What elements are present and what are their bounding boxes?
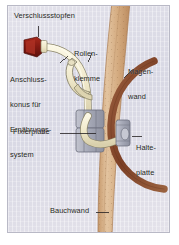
label-magenwand: Magen- wand — [128, 51, 153, 118]
label-anschlusskonus-line4: system — [10, 151, 51, 159]
label-anschlusskonus: Anschluss- konus für Ernährungs- system — [10, 59, 51, 177]
label-anschlusskonus-line1: Anschluss- — [10, 76, 51, 84]
label-anschlusskonus-line2: konus für — [10, 101, 51, 109]
closure-plug — [24, 37, 47, 57]
label-halteplatte-line1: Halte- — [136, 144, 156, 152]
label-rollenklemme-line1: Rollen- — [74, 50, 100, 58]
label-rollenklemme: Rollen- klemme — [74, 33, 100, 100]
internal-retention-plate — [116, 120, 130, 146]
label-verschlussstopfen: Verschlussstopfen — [14, 12, 75, 20]
label-rollenklemme-line2: klemme — [74, 75, 100, 83]
label-fixierplatte: Fixierplatte — [13, 128, 50, 136]
label-magenwand-line1: Magen- — [128, 68, 153, 76]
label-halteplatte: Halte- platte — [136, 127, 156, 194]
leader-anschlusskonus — [60, 56, 68, 63]
label-halteplatte-line2: platte — [136, 169, 156, 177]
label-magenwand-line2: wand — [128, 93, 153, 101]
figure-root: Verschlussstopfen Rollen- klemme Anschlu… — [0, 0, 179, 245]
label-bauchwand: Bauchwand — [50, 207, 89, 215]
